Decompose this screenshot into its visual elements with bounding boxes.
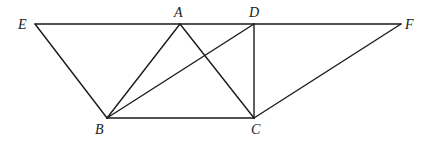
- segment-cf: [254, 24, 401, 118]
- point-label-f: F: [404, 17, 414, 32]
- point-label-c: C: [251, 122, 261, 137]
- point-label-b: B: [95, 122, 104, 137]
- point-label-a: A: [173, 5, 183, 20]
- geometry-diagram: EADFBC: [0, 0, 432, 141]
- point-label-d: D: [248, 5, 259, 20]
- segments-group: [35, 24, 401, 118]
- segment-ac: [180, 24, 254, 118]
- segment-eb: [35, 24, 107, 118]
- point-label-e: E: [17, 17, 27, 32]
- segment-bd: [107, 24, 254, 118]
- segment-ab: [107, 24, 180, 118]
- labels-group: EADFBC: [17, 5, 414, 137]
